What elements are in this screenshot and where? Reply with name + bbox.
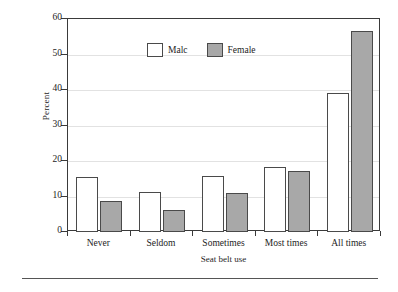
bar-never-female	[100, 201, 122, 232]
y-tick-label: 60	[36, 13, 62, 23]
y-tick-label: 30	[36, 120, 62, 130]
x-tick-mark	[317, 231, 318, 236]
chart-legend: Malc Female	[147, 43, 268, 57]
x-tick-mark	[130, 231, 131, 236]
legend-label-male: Malc	[168, 45, 188, 55]
legend-entry-male: Malc	[147, 43, 188, 57]
x-tick-label: Sometimes	[192, 238, 255, 249]
x-tick-label: Most times	[255, 238, 318, 249]
y-tick-label: 20	[36, 155, 62, 165]
bar-seldom-female	[163, 210, 185, 232]
y-tick-label: 0	[36, 226, 62, 236]
bar-never-malc	[76, 177, 98, 232]
x-tick-mark	[192, 231, 193, 236]
bar-seldom-malc	[139, 192, 161, 232]
x-tick-label: Seldom	[130, 238, 193, 249]
female-swatch-icon	[207, 43, 223, 57]
bar-sometimes-female	[226, 193, 248, 232]
y-axis-title: Percent	[41, 71, 51, 141]
y-tick-label: 10	[36, 191, 62, 201]
legend-label-female: Female	[228, 45, 256, 55]
x-axis-title: Seat belt use	[67, 254, 380, 264]
bar-most-times-malc	[264, 167, 286, 232]
x-tick-label: Never	[67, 238, 130, 249]
bar-all-times-female	[351, 31, 373, 232]
bar-all-times-malc	[327, 93, 349, 232]
y-tick-label: 40	[36, 84, 62, 94]
x-tick-mark	[380, 231, 381, 236]
plot-area: Malc Female	[67, 18, 380, 231]
male-swatch-icon	[147, 43, 163, 57]
bar-sometimes-malc	[202, 176, 224, 232]
horizontal-rule	[22, 278, 378, 279]
legend-entry-female: Female	[207, 43, 256, 57]
x-tick-label: All times	[317, 238, 380, 249]
y-tick-label: 50	[36, 49, 62, 59]
x-tick-mark	[255, 231, 256, 236]
bar-chart-figure: Percent 0102030405060 Malc Female NeverS…	[0, 0, 398, 292]
bar-most-times-female	[288, 171, 310, 232]
x-tick-mark	[67, 231, 68, 236]
gridline	[68, 90, 379, 91]
